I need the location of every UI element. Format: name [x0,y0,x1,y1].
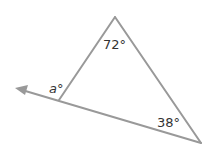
side-left [59,17,115,100]
angle-top-label: 72° [103,38,126,51]
exterior-angle-label: a° [49,82,63,95]
triangle-diagram [0,0,210,161]
arrowhead-icon [15,85,28,95]
angle-bottom-right-label: 38° [157,116,180,129]
